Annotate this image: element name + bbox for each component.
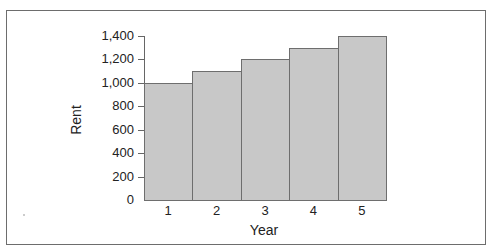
- y-tick-mark: [138, 36, 144, 37]
- bar-year-4: [289, 48, 338, 201]
- bar-year-3: [241, 59, 290, 201]
- y-tick-label: 800: [112, 99, 134, 113]
- bar-year-2: [192, 71, 241, 201]
- x-tick-label: 1: [158, 203, 178, 218]
- bar-year-1: [144, 83, 193, 201]
- y-tick-label: 1,200: [101, 52, 134, 66]
- x-tick-label: 3: [255, 203, 275, 218]
- x-tick-label: 4: [303, 203, 323, 218]
- y-tick-mark: [138, 59, 144, 60]
- x-axis-title: Year: [234, 222, 294, 238]
- y-tick-label: 1,400: [101, 29, 134, 43]
- y-tick-label: 600: [112, 123, 134, 137]
- bar-year-5: [338, 36, 387, 201]
- y-tick-label: 400: [112, 146, 134, 160]
- y-tick-label: 1,000: [101, 76, 134, 90]
- scan-speck: [23, 214, 25, 216]
- y-tick-label: 0: [127, 193, 134, 207]
- x-tick-label: 5: [352, 203, 372, 218]
- y-tick-label: 200: [112, 170, 134, 184]
- x-tick-label: 2: [207, 203, 227, 218]
- y-axis-title: Rent: [68, 100, 84, 140]
